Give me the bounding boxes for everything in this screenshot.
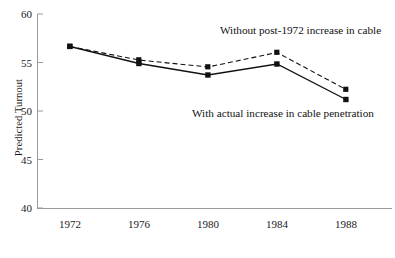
data-point-without-1988 bbox=[343, 87, 348, 92]
series-with-actual-cable bbox=[67, 44, 348, 103]
x-tick-label-1988: 1988 bbox=[335, 218, 358, 230]
y-axis-ticks: 60 55 50 45 40 bbox=[21, 8, 43, 214]
data-point-with-1984 bbox=[274, 61, 279, 66]
x-tick-label-1984: 1984 bbox=[266, 218, 289, 230]
annotation-without-cable-increase: Without post-1972 increase in cable bbox=[220, 24, 381, 36]
x-tick-label-1980: 1980 bbox=[197, 218, 220, 230]
y-tick-label-60: 60 bbox=[21, 8, 33, 20]
x-tick-label-1972: 1972 bbox=[59, 218, 81, 230]
x-axis-ticks: 1972 1976 1980 1984 1988 bbox=[59, 218, 358, 230]
data-point-without-1980 bbox=[205, 64, 210, 69]
chart-figure: Predicted Turnout 60 55 50 45 40 1972 19… bbox=[0, 0, 395, 258]
y-tick-label-40: 40 bbox=[21, 202, 33, 214]
data-point-with-1972 bbox=[67, 44, 72, 49]
annotation-with-actual-cable: With actual increase in cable penetratio… bbox=[192, 107, 374, 119]
data-point-with-1988 bbox=[343, 97, 348, 102]
y-axis-title: Predicted Turnout bbox=[13, 53, 24, 183]
turnout-line-chart: 60 55 50 45 40 1972 1976 1980 1984 1988 bbox=[0, 0, 395, 258]
data-point-with-1976 bbox=[136, 61, 141, 66]
series-without-cable-increase bbox=[67, 44, 348, 92]
x-tick-label-1976: 1976 bbox=[128, 218, 151, 230]
data-point-with-1980 bbox=[205, 72, 210, 77]
data-point-without-1984 bbox=[274, 50, 279, 55]
